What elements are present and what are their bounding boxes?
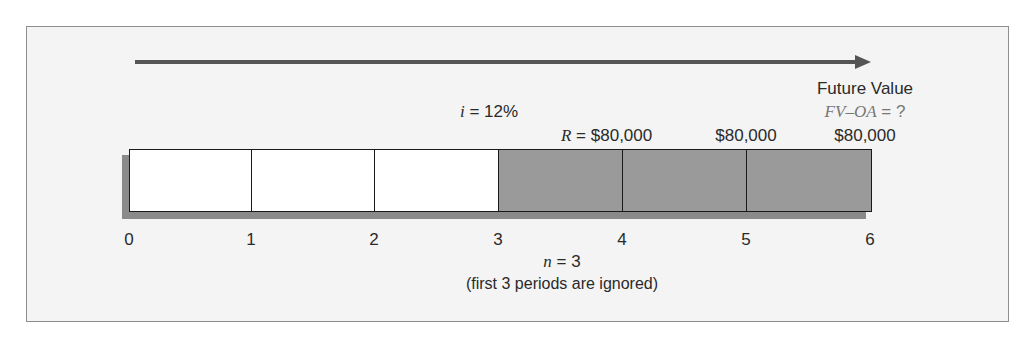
period-tick-2: 2: [369, 231, 378, 248]
n-value: = 3: [552, 252, 581, 271]
future-value-formula: FV–OA = ?: [825, 103, 906, 120]
fv-oa-symbol: FV–OA: [825, 102, 877, 121]
period-cell-2: [251, 149, 375, 212]
rate-value: = 12%: [465, 102, 518, 121]
payment-label-4: R = $80,000: [561, 127, 652, 144]
future-value-title: Future Value: [817, 80, 913, 97]
fv-oa-equals: = ?: [877, 102, 906, 121]
period-tick-4: 4: [617, 231, 626, 248]
n-periods-label: n = 3: [543, 253, 580, 270]
period-cell-1: [129, 149, 252, 212]
period-cell-5: [622, 149, 747, 212]
payment-symbol: R: [561, 126, 571, 145]
payment-value: = $80,000: [571, 126, 652, 145]
period-cell-4: [498, 149, 623, 212]
period-tick-1: 1: [246, 231, 255, 248]
interest-rate-label: i = 12%: [460, 103, 518, 120]
period-tick-3: 3: [493, 231, 502, 248]
timeline-shadow-bottom: [122, 211, 866, 219]
period-tick-6: 6: [865, 231, 874, 248]
payment-label-6: $80,000: [834, 127, 895, 144]
payment-label-5: $80,000: [715, 127, 776, 144]
ignored-periods-note: (first 3 periods are ignored): [466, 276, 658, 292]
period-cell-6: [746, 149, 872, 212]
period-cell-3: [374, 149, 499, 212]
period-tick-5: 5: [741, 231, 750, 248]
time-arrow-line: [135, 60, 857, 64]
period-tick-0: 0: [124, 231, 133, 248]
arrow-right-icon: [855, 55, 871, 69]
n-symbol: n: [543, 252, 552, 271]
